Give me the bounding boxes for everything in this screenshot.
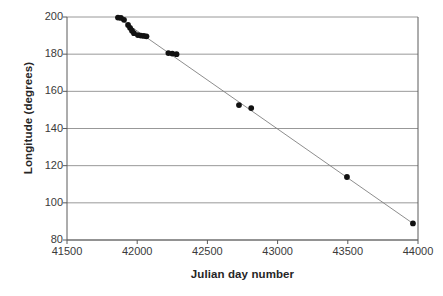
x-tick-label: 43000: [243, 245, 313, 257]
trend-line: [118, 18, 413, 224]
x-axis-title: Julian day number: [67, 268, 418, 280]
data-point-marker: [236, 102, 242, 108]
x-tick-label: 43500: [313, 245, 383, 257]
x-tick-label: 44000: [383, 245, 443, 257]
x-tick-label: 42000: [102, 245, 172, 257]
x-axis-tick-labels: 415004200042500430004350044000: [0, 245, 443, 265]
data-point-marker: [121, 17, 127, 23]
data-point-marker: [144, 33, 150, 39]
data-point-marker: [344, 174, 350, 180]
data-point-marker: [248, 105, 254, 111]
data-point-marker: [174, 51, 180, 57]
chart-container: Longitude (degrees) 80100120140160180200…: [0, 0, 443, 296]
data-point-marker: [410, 221, 416, 227]
x-tick-label: 42500: [172, 245, 242, 257]
x-tick-label: 41500: [32, 245, 102, 257]
